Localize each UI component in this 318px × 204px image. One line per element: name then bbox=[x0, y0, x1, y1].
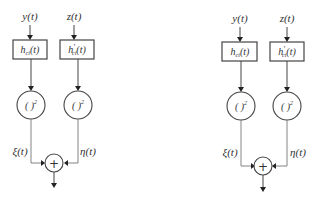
arrow-head-icon bbox=[284, 37, 290, 42]
arrow-head-icon bbox=[284, 87, 290, 92]
diagram-canvas: y(t) z(t) hci(t) h′ci(t) ( )2 ( )2 bbox=[0, 0, 318, 204]
eta-label: η(t) bbox=[80, 145, 96, 158]
plus-icon: + bbox=[49, 157, 59, 171]
arrow-head-icon bbox=[27, 35, 33, 40]
eta-label: η(t) bbox=[290, 146, 306, 159]
arrow-head-icon bbox=[75, 86, 81, 91]
xi-signal-line bbox=[241, 120, 252, 166]
arrow-head-icon bbox=[272, 163, 276, 169]
xi-label: ξ(t) bbox=[222, 146, 237, 159]
input-z-label: z(t) bbox=[66, 10, 82, 23]
arrow-head-icon bbox=[237, 37, 243, 42]
eta-signal-line bbox=[275, 120, 287, 166]
arrow-head-icon bbox=[71, 35, 77, 40]
xi-signal-line bbox=[31, 119, 42, 163]
input-y-label: y(t) bbox=[21, 10, 38, 23]
input-y-label: y(t) bbox=[231, 12, 248, 25]
input-z-label: z(t) bbox=[279, 12, 295, 25]
filter-label-2: h′ci(t) bbox=[68, 43, 86, 56]
arrow-head-icon bbox=[238, 87, 244, 92]
plus-icon: + bbox=[258, 160, 268, 174]
filter-label-1: hci(t) bbox=[21, 44, 40, 56]
filter-label-1: hct(t) bbox=[231, 46, 250, 58]
arrow-head-icon bbox=[28, 86, 34, 91]
arrow-head-icon bbox=[51, 183, 57, 188]
arrow-head-icon bbox=[64, 160, 68, 166]
xi-label: ξ(t) bbox=[12, 145, 27, 158]
arrow-head-icon bbox=[260, 187, 266, 192]
filter-label-2: h′ct(t) bbox=[278, 45, 296, 58]
right-diagram: y(t) z(t) hct(t) h′ct(t) ( )2 ( )2 ξ(t) bbox=[222, 12, 306, 192]
eta-signal-line bbox=[67, 119, 78, 163]
left-diagram: y(t) z(t) hci(t) h′ci(t) ( )2 ( )2 bbox=[12, 10, 96, 188]
arrow-head-icon bbox=[41, 160, 45, 166]
